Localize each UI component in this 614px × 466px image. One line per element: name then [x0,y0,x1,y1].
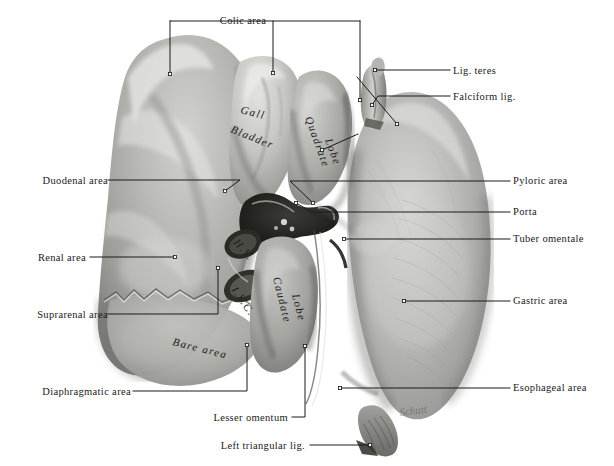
leader-endpoint [368,443,371,446]
label-suprarenal-area: Suprarenal area [37,310,108,321]
anatomical-plate: Schutt GallBladderQuadrateLobeCaudateLob… [0,0,614,466]
leader-endpoint [168,72,171,75]
leader-endpoint [402,299,405,302]
leader-endpoint [245,343,248,346]
label-tuber-omentale: Tuber omentale [513,234,584,245]
leader-endpoint [338,386,341,389]
leader-endpoint [223,189,226,192]
left-triangular-ligament [356,405,398,456]
leader-endpoint [373,68,376,71]
label-esophageal-area: Esophageal area [513,383,587,394]
label-pyloric-area: Pyloric area [513,176,568,187]
leader-endpoint [216,266,219,269]
label-falciform-lig: Falciform lig. [453,92,516,103]
label-duodenal-area: Duodenal area [43,176,108,187]
leader-endpoint [303,344,306,347]
label-diaphragmatic-area: Diaphragmatic area [42,387,131,398]
label-gastric-area: Gastric area [513,296,568,307]
label-colic-area: Colic area [220,16,266,27]
leader-endpoint [370,103,373,106]
left-lobe-gastric [342,92,491,419]
leader-endpoint [311,201,314,204]
leader-endpoint [342,237,345,240]
leader-endpoint [395,122,398,125]
leader-endpoint [294,201,297,204]
leader-endpoint [173,255,176,258]
leader-endpoint [271,71,274,74]
label-renal-area: Renal area [38,253,86,264]
label-left-triangular-lig: Left triangular lig. [221,441,305,452]
leader-endpoint [320,148,323,151]
label-porta: Porta [513,207,537,218]
label-lig-teres: Lig. teres [453,66,496,77]
label-lesser-omentum: Lesser omentum [213,413,288,424]
leader-endpoint [358,98,361,101]
